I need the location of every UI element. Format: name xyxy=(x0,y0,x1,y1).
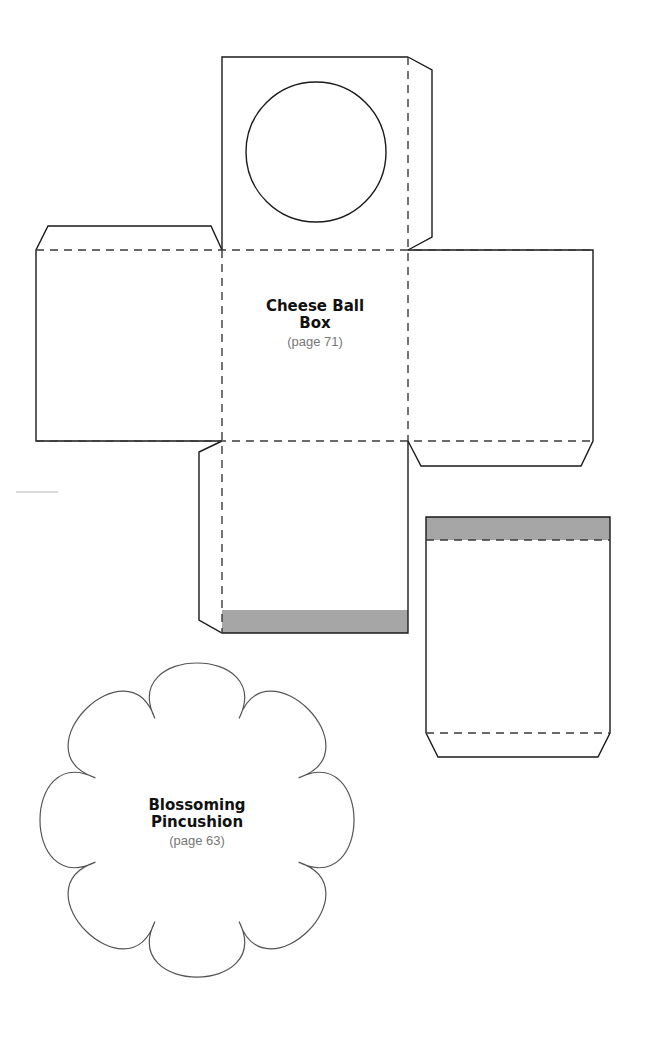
side-panel-outline xyxy=(426,517,610,757)
side-panel-piece xyxy=(426,517,610,757)
cheese-ball-box-title-line2: Box xyxy=(235,315,395,332)
box-lid-outline xyxy=(222,57,408,250)
box-lid-circle-window xyxy=(246,82,386,222)
box-left-panel-outline xyxy=(36,226,222,441)
pincushion-label: Blossoming Pincushion (page 63) xyxy=(117,797,277,848)
cheese-ball-box-title-line1: Cheese Ball xyxy=(235,298,395,315)
cheese-ball-box-label: Cheese Ball Box (page 71) xyxy=(235,298,395,349)
pincushion-page-ref: (page 63) xyxy=(117,834,277,849)
pincushion-title-line1: Blossoming xyxy=(117,797,277,814)
side-panel-glue-band xyxy=(426,517,610,540)
box-lid-tab xyxy=(408,57,432,250)
box-bottom-panel-outline xyxy=(199,441,408,633)
box-right-panel-outline xyxy=(408,250,593,466)
box-glue-band xyxy=(222,610,408,633)
cheese-ball-box-page-ref: (page 71) xyxy=(235,335,395,350)
pincushion-title-line2: Pincushion xyxy=(117,814,277,831)
